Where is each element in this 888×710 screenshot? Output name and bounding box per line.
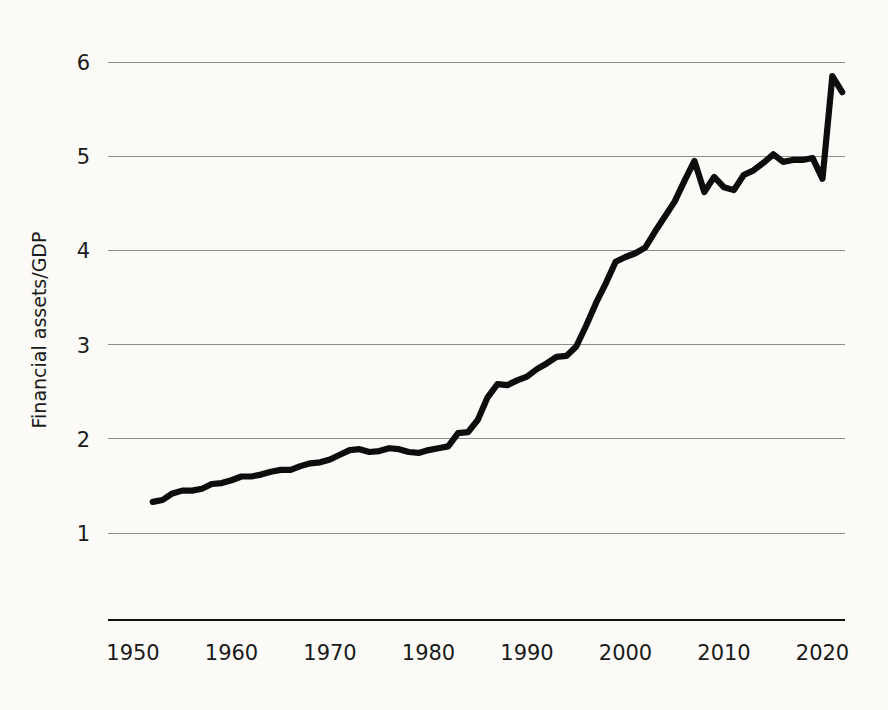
chart-background (0, 0, 888, 710)
x-tick-label-2010: 2010 (697, 641, 750, 665)
chart-figure: 123456 19501960197019801990200020102020 … (0, 0, 888, 710)
x-tick-label-1960: 1960 (205, 641, 258, 665)
y-tick-label-3: 3 (77, 334, 90, 358)
x-tick-label-2000: 2000 (599, 641, 652, 665)
x-tick-label-1990: 1990 (500, 641, 553, 665)
y-tick-label-6: 6 (77, 51, 90, 75)
financial-assets-gdp-line-chart: 123456 19501960197019801990200020102020 … (0, 0, 888, 710)
x-tick-label-1970: 1970 (303, 641, 356, 665)
x-tick-label-1950: 1950 (106, 641, 159, 665)
y-tick-label-5: 5 (77, 145, 90, 169)
x-tick-label-2020: 2020 (796, 641, 849, 665)
y-tick-label-4: 4 (77, 239, 90, 263)
x-tick-label-1980: 1980 (402, 641, 455, 665)
y-tick-label-2: 2 (77, 428, 90, 452)
y-tick-label-1: 1 (77, 522, 90, 546)
y-axis-title: Financial assets/GDP (28, 232, 50, 429)
